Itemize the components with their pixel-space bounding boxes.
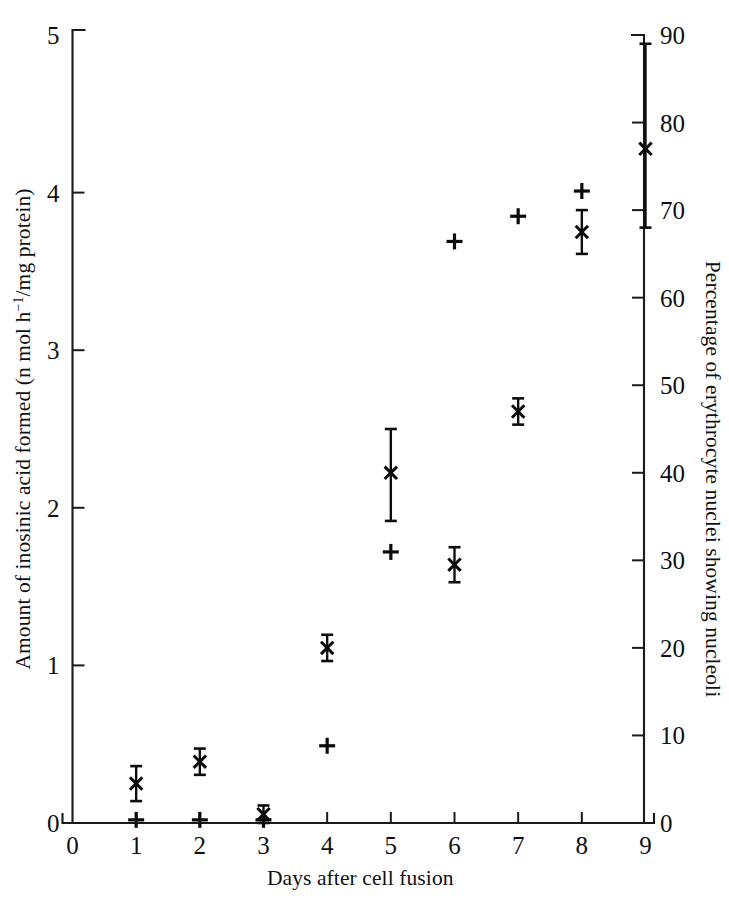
x-tick-label: 1 xyxy=(130,832,143,859)
x-tick-label: 5 xyxy=(385,832,398,859)
x-tick-label: 3 xyxy=(257,832,270,859)
y2-tick-label: 50 xyxy=(660,372,685,399)
y-tick-label: 0 xyxy=(47,810,60,837)
x-tick-label: 4 xyxy=(321,832,334,859)
y2-tick-label: 30 xyxy=(660,547,685,574)
y-tick-label: 4 xyxy=(47,180,60,207)
y2-tick-label: 20 xyxy=(660,635,685,662)
y2-tick-label: 80 xyxy=(660,110,685,137)
figure-canvas: 0123456789 012345 0102030405060708090 Da… xyxy=(0,0,729,900)
y-tick-label: 5 xyxy=(47,22,60,49)
x-tick-label: 6 xyxy=(448,832,461,859)
y-axis-left-title-region[interactable] xyxy=(10,150,46,670)
x-tick-label: 2 xyxy=(194,832,207,859)
x-axis-tick-labels: 0123456789 xyxy=(66,832,652,859)
y2-tick-label: 60 xyxy=(660,285,685,312)
y2-tick-label: 70 xyxy=(660,197,685,224)
x-tick-label: 7 xyxy=(512,832,525,859)
y-axis-right-tick-labels: 0102030405060708090 xyxy=(660,22,685,837)
y-tick-label: 2 xyxy=(47,495,60,522)
y-axis-left-tick-labels: 012345 xyxy=(47,22,60,837)
x-tick-label: 8 xyxy=(576,832,589,859)
y2-tick-label: 90 xyxy=(660,22,685,49)
y-tick-label: 3 xyxy=(47,337,60,364)
y2-tick-label: 10 xyxy=(660,722,685,749)
x-axis-title-region[interactable] xyxy=(250,862,480,892)
y2-tick-label: 40 xyxy=(660,460,685,487)
x-tick-label: 9 xyxy=(639,832,652,859)
y-axis-right-title-region[interactable] xyxy=(686,200,722,720)
plot-area[interactable] xyxy=(72,30,646,824)
x-tick-label: 0 xyxy=(66,832,79,859)
y2-tick-label: 0 xyxy=(660,810,673,837)
y-tick-label: 1 xyxy=(47,652,60,679)
